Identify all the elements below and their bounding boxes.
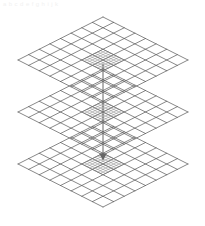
arrow-head [99, 154, 107, 160]
isometric-grid-diagram [0, 0, 205, 226]
figure-root: a b c d e f g h i j k [0, 0, 205, 226]
